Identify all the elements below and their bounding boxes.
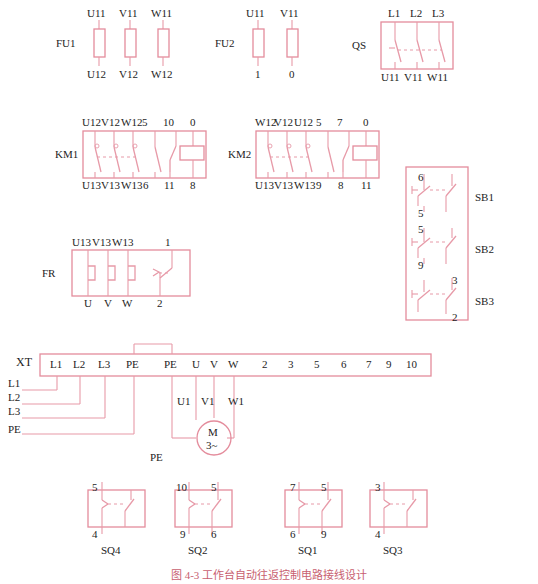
xt-terminal-10[interactable]: 5 bbox=[314, 359, 320, 370]
fu1-symbol bbox=[94, 20, 169, 66]
sq2-bottom-left-label: 9 bbox=[180, 529, 186, 540]
km2-bottom-label-4: 8 bbox=[338, 180, 344, 191]
sq3-top-left-label: 3 bbox=[375, 482, 381, 493]
fu2-top-label-0: U11 bbox=[246, 8, 265, 19]
qs-top-label-0: L1 bbox=[388, 8, 400, 19]
fu1-bottom-label-2: W12 bbox=[151, 69, 172, 80]
fu2-top-label-1: V11 bbox=[280, 8, 299, 19]
xt-terminal-1[interactable]: L2 bbox=[73, 359, 85, 370]
km1-symbol bbox=[83, 131, 206, 178]
schematic-drawing bbox=[0, 0, 538, 584]
xt-terminal-9[interactable]: 3 bbox=[288, 359, 294, 370]
km2-bottom-label-2: W13 bbox=[294, 180, 315, 191]
sq2-top-left-label: 10 bbox=[176, 482, 187, 493]
sq4-bottom-left-label: 4 bbox=[92, 529, 98, 540]
supply-line-pe: PE bbox=[8, 424, 21, 435]
sq1-name: SQ1 bbox=[298, 545, 318, 556]
km1-bottom-label-5: 8 bbox=[190, 180, 196, 191]
sb3-top-label: 3 bbox=[452, 275, 458, 286]
xt-terminal-11[interactable]: 6 bbox=[341, 359, 347, 370]
xt-terminal-0[interactable]: L1 bbox=[50, 359, 62, 370]
xt-terminal-5[interactable]: U bbox=[192, 359, 200, 370]
km2-bottom-label-1: V13 bbox=[274, 180, 293, 191]
motor-phase-w1: W1 bbox=[228, 396, 244, 407]
fu2-name: FU2 bbox=[215, 38, 235, 49]
km1-bottom-label-3: 6 bbox=[143, 180, 149, 191]
xt-terminal-6[interactable]: V bbox=[210, 359, 218, 370]
qs-symbol bbox=[381, 22, 453, 69]
fr-bottom-label-2: W bbox=[122, 298, 132, 309]
motor-wiring bbox=[172, 376, 234, 455]
fu1-bottom-label-1: V12 bbox=[119, 69, 138, 80]
fu2-symbol bbox=[253, 20, 298, 66]
figure-caption: 图 4-3 工作台自动往返控制电路接线设计 bbox=[0, 566, 538, 582]
fu1-top-label-2: W11 bbox=[151, 8, 172, 19]
qs-bottom-label-2: W11 bbox=[427, 72, 448, 83]
km2-top-label-1: V12 bbox=[274, 117, 293, 128]
sq2-bottom-right-label: 6 bbox=[211, 529, 217, 540]
schematic-sheet: FU1 U11 V11 W11 U12 V12 W12 FU2 U11 V11 … bbox=[0, 0, 538, 584]
fr-top-label-3: 1 bbox=[165, 237, 171, 248]
xt-terminal-4[interactable]: PE bbox=[164, 359, 177, 370]
motor-phase-u1: U1 bbox=[177, 396, 190, 407]
xt-terminal-3[interactable]: PE bbox=[126, 359, 139, 370]
sq1-bottom-left-label: 6 bbox=[290, 529, 296, 540]
km1-bottom-label-1: V13 bbox=[101, 180, 120, 191]
sq1-bottom-right-label: 9 bbox=[321, 529, 327, 540]
fu2-bottom-label-0: 1 bbox=[255, 69, 261, 80]
sq4-top-left-label: 5 bbox=[92, 482, 98, 493]
motor-symbol-top: M bbox=[208, 427, 218, 438]
xt-terminal-7[interactable]: W bbox=[228, 359, 238, 370]
km1-top-label-1: V12 bbox=[101, 117, 120, 128]
xt-name: XT bbox=[16, 357, 32, 368]
km1-top-label-2: W12 bbox=[121, 117, 142, 128]
qs-top-label-1: L2 bbox=[410, 8, 422, 19]
sb1-top-label: 6 bbox=[418, 172, 424, 183]
sq4-name: SQ4 bbox=[101, 545, 121, 556]
qs-bottom-label-0: U11 bbox=[381, 72, 400, 83]
km1-top-label-0: U12 bbox=[82, 117, 101, 128]
sq2-name: SQ2 bbox=[188, 545, 208, 556]
xt-terminal-14[interactable]: 10 bbox=[406, 359, 417, 370]
sb1-name: SB1 bbox=[475, 192, 494, 203]
sb2-bottom-label: 9 bbox=[418, 260, 424, 271]
km1-bottom-label-2: W13 bbox=[121, 180, 142, 191]
xt-terminal-12[interactable]: 7 bbox=[366, 359, 372, 370]
km2-bottom-label-5: 11 bbox=[361, 180, 372, 191]
sb3-bottom-label: 2 bbox=[452, 312, 458, 323]
motor-ground-label: PE bbox=[150, 452, 163, 463]
supply-wiring bbox=[22, 376, 134, 434]
km2-name: KM2 bbox=[228, 149, 251, 160]
sq3-name: SQ3 bbox=[383, 545, 403, 556]
km2-top-label-3: 5 bbox=[316, 117, 322, 128]
fr-bottom-label-3: 2 bbox=[157, 298, 163, 309]
km2-bottom-label-0: U13 bbox=[255, 180, 274, 191]
km1-top-label-5: 0 bbox=[190, 117, 196, 128]
motor-phase-v1: V1 bbox=[201, 396, 214, 407]
xt-terminal-13[interactable]: 9 bbox=[386, 359, 392, 370]
fu1-top-label-0: U11 bbox=[87, 8, 106, 19]
fu1-top-label-1: V11 bbox=[119, 8, 138, 19]
km2-top-label-5: 0 bbox=[363, 117, 369, 128]
supply-line-l2: L2 bbox=[8, 392, 20, 403]
sq1-top-left-label: 7 bbox=[290, 482, 296, 493]
km2-bottom-label-3: 9 bbox=[316, 180, 322, 191]
fu2-bottom-label-1: 0 bbox=[289, 69, 295, 80]
km2-top-label-2: U12 bbox=[294, 117, 313, 128]
sb2-name: SB2 bbox=[475, 244, 494, 255]
xt-terminal-8[interactable]: 2 bbox=[262, 359, 268, 370]
fr-top-label-2: W13 bbox=[112, 237, 133, 248]
fu1-bottom-label-0: U12 bbox=[87, 69, 106, 80]
fr-symbol bbox=[72, 250, 190, 296]
km1-top-label-4: 10 bbox=[163, 117, 174, 128]
km1-top-label-3: 5 bbox=[142, 117, 148, 128]
sq2-top-right-label: 5 bbox=[211, 482, 217, 493]
fr-bottom-label-0: U bbox=[84, 298, 92, 309]
fr-name: FR bbox=[42, 268, 55, 279]
qs-top-label-2: L3 bbox=[432, 8, 444, 19]
xt-terminal-2[interactable]: L3 bbox=[98, 359, 110, 370]
km1-bottom-label-0: U13 bbox=[82, 180, 101, 191]
sq3-bottom-left-label: 4 bbox=[375, 529, 381, 540]
sb2-top-label: 5 bbox=[418, 224, 424, 235]
km1-name: KM1 bbox=[55, 149, 78, 160]
